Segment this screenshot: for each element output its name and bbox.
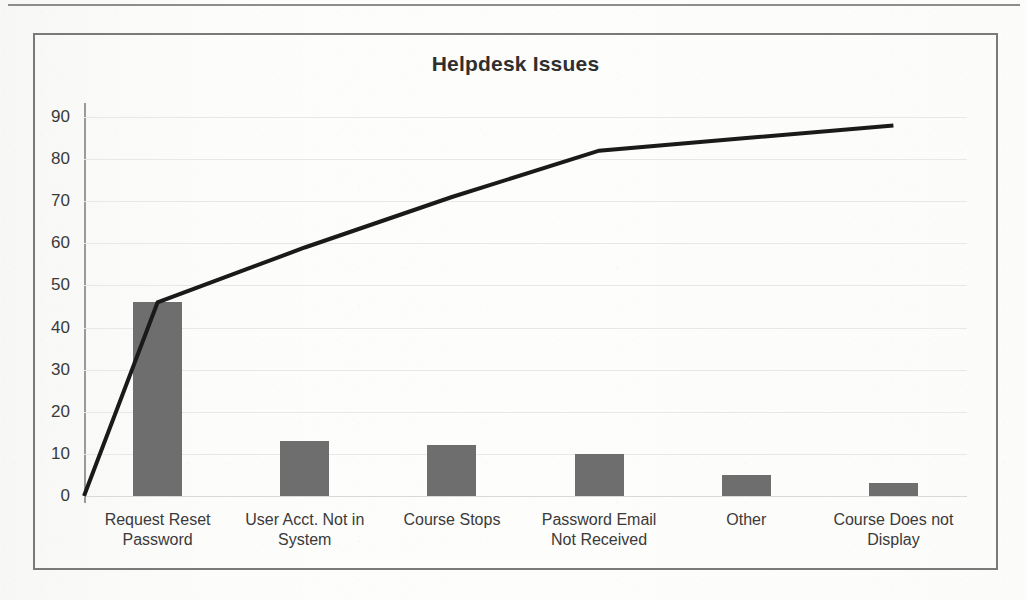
x-axis-tick-label-line: System bbox=[220, 530, 390, 550]
y-axis-tick-label: 60 bbox=[51, 233, 70, 253]
x-axis-tick-label-line: Other bbox=[661, 510, 831, 530]
plot-area: 0102030405060708090 Request ResetPasswor… bbox=[84, 117, 967, 496]
gridline bbox=[84, 496, 967, 497]
y-axis-tick-label: 90 bbox=[51, 107, 70, 127]
x-axis-tick-label-line: Password Email bbox=[514, 510, 684, 530]
x-axis-tick-label-line: Password bbox=[73, 530, 243, 550]
x-axis-tick-label-line: Request Reset bbox=[73, 510, 243, 530]
chart-title: Helpdesk Issues bbox=[35, 52, 996, 76]
x-axis-tick-label: Request ResetPassword bbox=[73, 510, 243, 551]
x-axis-tick-label: User Acct. Not inSystem bbox=[220, 510, 390, 551]
x-axis-tick-label: Course Stops bbox=[367, 510, 537, 530]
x-axis-tick-label-line: User Acct. Not in bbox=[220, 510, 390, 530]
x-axis-tick-label-line: Display bbox=[808, 530, 978, 550]
document-top-rule bbox=[8, 4, 1020, 6]
x-axis-tick-label-line: Course Does not bbox=[808, 510, 978, 530]
y-axis-tick-label: 0 bbox=[61, 486, 70, 506]
x-axis-tick-label: Other bbox=[661, 510, 831, 530]
cumulative-line-series bbox=[84, 117, 967, 496]
y-axis-tick-label: 80 bbox=[51, 149, 70, 169]
x-axis-tick-label-line: Not Received bbox=[514, 530, 684, 550]
y-axis-tick-label: 10 bbox=[51, 444, 70, 464]
x-axis-tick-label-line: Course Stops bbox=[367, 510, 537, 530]
chart-frame: Helpdesk Issues 0102030405060708090 Requ… bbox=[33, 33, 998, 570]
y-axis-tick-label: 30 bbox=[51, 360, 70, 380]
y-axis-tick-label: 20 bbox=[51, 402, 70, 422]
document-page: Helpdesk Issues 0102030405060708090 Requ… bbox=[0, 0, 1027, 600]
y-axis-tick-label: 50 bbox=[51, 275, 70, 295]
x-axis-tick-label: Password EmailNot Received bbox=[514, 510, 684, 551]
y-axis-tick-label: 70 bbox=[51, 191, 70, 211]
y-axis-tick-label: 40 bbox=[51, 318, 70, 338]
x-axis-tick-label: Course Does notDisplay bbox=[808, 510, 978, 551]
